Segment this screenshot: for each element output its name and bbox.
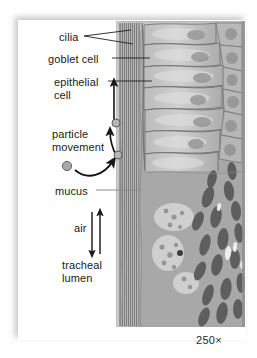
figure-tracheal-epithelium: cilia goblet cell epithelial cell partic… [0,0,257,358]
particle-free [62,161,71,170]
particle-arrow-curve [75,161,113,176]
cilia-leader [84,30,133,44]
particle-middle [114,151,122,159]
particle-upper [112,119,120,127]
particles [62,119,122,171]
